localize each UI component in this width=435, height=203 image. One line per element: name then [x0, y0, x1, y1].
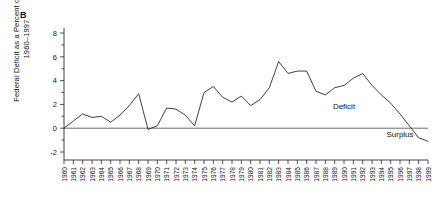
- x-tick-label: 1977: [219, 167, 226, 182]
- x-tick-label: 1986: [303, 167, 310, 182]
- x-tick-label: 1997: [406, 167, 413, 182]
- surplus-annotation: Surplus: [386, 130, 413, 139]
- x-tick-label: 1973: [182, 167, 189, 182]
- y-tick-label: 6: [53, 53, 57, 62]
- x-tick-label: 1961: [70, 167, 77, 182]
- x-tick-label: 1967: [126, 167, 133, 182]
- x-tick-label: 1985: [294, 167, 301, 182]
- x-tick-label: 1989: [331, 167, 338, 182]
- x-tick-label: 1975: [201, 167, 208, 182]
- x-tick-label: 1991: [350, 167, 357, 182]
- x-tick-label: 1984: [285, 167, 292, 182]
- y-tick-label: -2: [50, 148, 57, 157]
- x-tick-label: 1976: [210, 167, 217, 182]
- x-tick-label: 1970: [154, 167, 161, 182]
- x-tick-label: 1994: [378, 167, 385, 182]
- x-tick-label: 1960: [61, 167, 68, 182]
- x-tick-label: 1988: [322, 167, 329, 182]
- deficit-annotation: Deficit: [333, 102, 356, 111]
- x-tick-label: 1982: [266, 167, 273, 182]
- x-tick-label: 1999: [425, 167, 432, 182]
- x-tick-label: 1990: [341, 167, 348, 182]
- y-tick-label: 2: [53, 100, 57, 109]
- x-tick-label: 1993: [369, 167, 376, 182]
- x-tick-label: 1972: [173, 167, 180, 182]
- x-tick-label: 1987: [313, 167, 320, 182]
- deficit-line-chart: -202468196019611962196319641965196619671…: [0, 0, 435, 203]
- x-tick-label: 1981: [257, 167, 264, 182]
- x-tick-label: 1962: [79, 167, 86, 182]
- y-tick-label: 4: [53, 76, 57, 85]
- x-tick-label: 1968: [135, 167, 142, 182]
- x-tick-label: 1978: [229, 167, 236, 182]
- x-tick-label: 1983: [275, 167, 282, 182]
- x-tick-label: 1964: [98, 167, 105, 182]
- x-tick-label: 1966: [117, 167, 124, 182]
- y-tick-label: 8: [53, 29, 57, 38]
- x-tick-label: 1996: [397, 167, 404, 182]
- x-tick-label: 1974: [191, 167, 198, 182]
- x-tick-label: 1992: [359, 167, 366, 182]
- deficit-series-line: [64, 62, 428, 142]
- x-tick-label: 1965: [107, 167, 114, 182]
- x-tick-label: 1979: [238, 167, 245, 182]
- figure-panel-b: B Federal Deficit as a Percent of GDP, 1…: [0, 0, 435, 203]
- x-tick-label: 1963: [89, 167, 96, 182]
- x-tick-label: 1998: [415, 167, 422, 182]
- x-tick-label: 1995: [387, 167, 394, 182]
- x-tick-label: 1969: [145, 167, 152, 182]
- x-tick-label: 1971: [163, 167, 170, 182]
- x-tick-label: 1980: [247, 167, 254, 182]
- y-tick-label: 0: [53, 124, 57, 133]
